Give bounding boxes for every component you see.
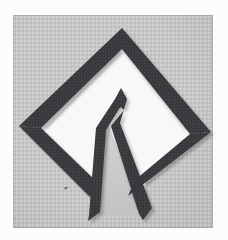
- patch-photo: [0, 0, 228, 240]
- photo-frame: [0, 0, 228, 240]
